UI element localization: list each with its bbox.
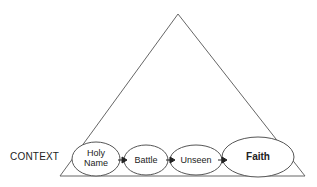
context-label: CONTEXT	[10, 151, 59, 162]
node-holy-name-label: Holy Name	[78, 148, 114, 168]
node-holy-name-line2: Name	[78, 158, 114, 168]
node-holy-name-line1: Holy	[78, 148, 114, 158]
node-battle-label: Battle	[128, 155, 164, 165]
diagram-canvas: CONTEXT Holy Name Battle Unseen Faith	[0, 0, 317, 187]
node-faith-label: Faith	[238, 152, 278, 162]
node-unseen-label: Unseen	[176, 155, 216, 165]
